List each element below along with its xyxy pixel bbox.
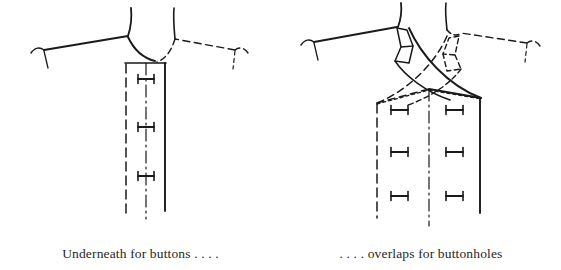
right-neckline-curve xyxy=(157,39,175,62)
button-mark-group-left xyxy=(391,106,408,201)
left-sleeve-hook xyxy=(301,40,314,45)
button-mark xyxy=(391,106,408,115)
button-mark xyxy=(391,192,408,201)
left-facing-panel-lower xyxy=(395,46,413,63)
left-garment-drawing xyxy=(0,0,281,236)
button-mark-group-right xyxy=(446,106,463,201)
caption-underneath-for-buttons: Underneath for buttons . . . . xyxy=(0,243,281,265)
left-shoulder-seam xyxy=(44,36,128,50)
right-garment-drawing xyxy=(281,0,561,236)
right-neck-rise xyxy=(446,3,447,30)
button-mark xyxy=(391,148,408,157)
figure-underneath-for-buttons xyxy=(0,0,281,236)
left-wrap-edge-inner xyxy=(395,61,450,100)
left-neck-rise xyxy=(128,8,131,36)
right-neck-notch xyxy=(447,30,462,35)
right-armhole-tick xyxy=(525,44,527,62)
left-armhole-tick xyxy=(44,51,48,68)
left-sleeve-hook xyxy=(31,48,44,53)
right-sleeve-hook xyxy=(235,48,248,53)
button-mark xyxy=(138,75,154,84)
figure-overlaps-for-buttonholes xyxy=(281,0,561,236)
left-neckline-curve xyxy=(128,37,155,61)
left-wrap-shoulder xyxy=(429,89,481,98)
left-armhole-tick xyxy=(314,43,318,60)
left-shoulder-seam xyxy=(314,27,397,42)
button-mark xyxy=(446,148,463,157)
right-wrap-shoulder xyxy=(377,89,429,103)
button-mark xyxy=(446,192,463,201)
right-shoulder-seam xyxy=(175,39,235,50)
right-armhole-tick xyxy=(233,51,235,69)
caption-overlaps-for-buttonholes: . . . . overlaps for buttonholes xyxy=(281,243,561,265)
right-shoulder-seam xyxy=(461,33,527,43)
right-facing-panel-lower xyxy=(443,54,461,71)
right-neck-rise xyxy=(174,8,175,39)
left-neck-rise xyxy=(398,3,401,27)
diagram-page: Underneath for buttons . . . . . . . . o… xyxy=(0,0,561,270)
button-mark xyxy=(446,106,463,115)
right-sleeve-hook xyxy=(527,41,540,46)
right-wrap-edge-inner xyxy=(408,69,461,105)
